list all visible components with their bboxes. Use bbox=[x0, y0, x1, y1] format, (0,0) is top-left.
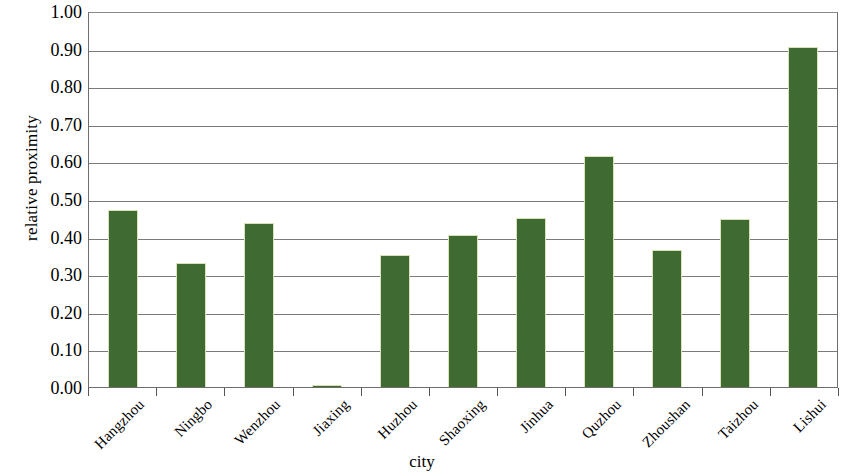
bar-slot bbox=[429, 13, 497, 387]
x-axis-tick-label: Lishui bbox=[790, 396, 830, 436]
x-axis-tick bbox=[565, 388, 566, 396]
x-axis-tick-label: Quzhou bbox=[579, 396, 625, 442]
x-axis-title: city bbox=[0, 452, 844, 472]
bar bbox=[244, 223, 274, 387]
y-axis-tick-label: 0.30 bbox=[18, 265, 82, 286]
bar-chart: relative proximity 0.000.100.200.300.400… bbox=[0, 0, 844, 476]
x-axis-tick bbox=[429, 388, 430, 396]
y-axis-tick-label: 0.80 bbox=[18, 77, 82, 98]
bars-layer bbox=[89, 13, 837, 387]
bar bbox=[652, 250, 682, 387]
bar-slot bbox=[497, 13, 565, 387]
bar bbox=[516, 218, 546, 387]
x-axis-tick bbox=[224, 388, 225, 396]
x-axis-tick bbox=[633, 388, 634, 396]
x-axis-tick-label: Zhoushan bbox=[639, 396, 694, 451]
bar-slot bbox=[157, 13, 225, 387]
y-axis-tick-label: 0.70 bbox=[18, 114, 82, 135]
bar bbox=[108, 210, 138, 387]
x-axis-tick bbox=[497, 388, 498, 396]
bar-slot bbox=[89, 13, 157, 387]
y-axis-tick-label: 0.10 bbox=[18, 340, 82, 361]
x-axis-tick bbox=[293, 388, 294, 396]
x-axis-tick bbox=[838, 388, 839, 396]
bar bbox=[380, 255, 410, 387]
bar-slot bbox=[361, 13, 429, 387]
y-axis-tick-label: 0.90 bbox=[18, 39, 82, 60]
bar-slot bbox=[565, 13, 633, 387]
x-axis-tick-label: Shaoxing bbox=[436, 396, 489, 449]
x-axis-tick bbox=[770, 388, 771, 396]
x-axis-tick-label: Taizhou bbox=[715, 396, 762, 443]
y-axis-tick-label: 0.60 bbox=[18, 152, 82, 173]
bar bbox=[448, 235, 478, 387]
x-axis-tick-label: Wenzhou bbox=[232, 396, 285, 449]
x-axis-tick-labels: HangzhouNingboWenzhouJiaxingHuzhouShaoxi… bbox=[88, 396, 838, 456]
x-axis-tick-label: Hangzhou bbox=[91, 396, 148, 453]
y-axis-tick-label: 0.50 bbox=[18, 190, 82, 211]
y-axis-tick-label: 0.20 bbox=[18, 302, 82, 323]
x-axis-tick bbox=[156, 388, 157, 396]
y-axis-tick-label: 0.40 bbox=[18, 227, 82, 248]
bar-slot bbox=[633, 13, 701, 387]
y-axis-tick-label: 1.00 bbox=[18, 2, 82, 23]
x-axis-tick-label: Jiaxing bbox=[309, 396, 353, 440]
bar-slot bbox=[225, 13, 293, 387]
x-axis-tick bbox=[361, 388, 362, 396]
x-axis-tick-label: Jinhua bbox=[517, 396, 558, 437]
x-axis-tick-label: Huzhou bbox=[374, 396, 420, 442]
x-axis-tick bbox=[88, 388, 89, 396]
bar bbox=[312, 385, 342, 387]
bar bbox=[720, 219, 750, 387]
bar bbox=[584, 156, 614, 387]
bar bbox=[176, 263, 206, 387]
x-axis-tick-label: Ningbo bbox=[172, 396, 217, 441]
plot-area bbox=[88, 12, 838, 388]
x-axis-ticks bbox=[88, 388, 838, 396]
bar-slot bbox=[293, 13, 361, 387]
bar-slot bbox=[701, 13, 769, 387]
x-axis-tick bbox=[702, 388, 703, 396]
y-axis-tick-label: 0.00 bbox=[18, 378, 82, 399]
bar bbox=[788, 47, 818, 387]
y-axis-tick-labels: 0.000.100.200.300.400.500.600.700.800.90… bbox=[18, 0, 82, 396]
bar-slot bbox=[769, 13, 837, 387]
